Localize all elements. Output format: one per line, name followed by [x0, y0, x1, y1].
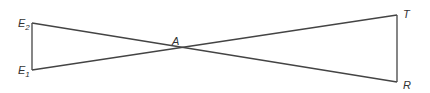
label-t: T [403, 8, 411, 20]
label-r: R [403, 79, 411, 91]
label-e1: E1 [18, 64, 30, 79]
label-a: A [171, 35, 179, 47]
label-e2: E2 [18, 17, 30, 32]
bowtie-diagram: E2 E1 A T R [0, 0, 430, 93]
segment-e2-r [32, 23, 397, 82]
segment-e1-t [32, 15, 397, 70]
